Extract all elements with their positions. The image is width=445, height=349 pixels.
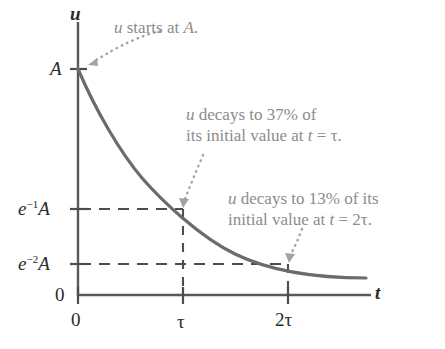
arrow-note-tau-leader xyxy=(185,155,203,199)
decay-curve xyxy=(78,69,366,278)
annotation-line: initial value at t = 2τ. xyxy=(228,209,379,230)
y-tick-label-e1A: e−1A xyxy=(18,199,50,218)
annotation-line: u starts at A. xyxy=(114,17,198,38)
annotation-u-starts-at-a: u starts at A. xyxy=(114,17,198,38)
arrow-note-tau-head xyxy=(179,198,189,208)
annotation-line: its initial value at t = τ. xyxy=(186,125,342,146)
exponential-decay-figure: u t A e−1A e−2A 0 0 τ 2τ u starts at A. … xyxy=(0,0,445,349)
annotation-line: u decays to 37% of xyxy=(186,104,342,125)
y-tick-label-zero: 0 xyxy=(55,285,65,304)
annotation-13-percent: u decays to 13% of its initial value at … xyxy=(228,188,379,231)
x-tick-label-2tau: 2τ xyxy=(275,310,292,329)
x-axis-label: t xyxy=(375,283,380,302)
y-axis-label: u xyxy=(70,4,81,23)
y-tick-label-A: A xyxy=(50,59,62,78)
arrow-note-2tau-head xyxy=(285,253,295,263)
x-tick-label-tau: τ xyxy=(177,312,185,331)
y-tick-label-e2A: e−2A xyxy=(18,254,50,273)
annotation-37-percent: u decays to 37% of its initial value at … xyxy=(186,104,342,147)
arrow-note-2tau-leader xyxy=(291,229,302,254)
x-tick-label-zero: 0 xyxy=(71,310,81,329)
annotation-line: u decays to 13% of its xyxy=(228,188,379,209)
arrow-note-start-head xyxy=(88,58,98,66)
